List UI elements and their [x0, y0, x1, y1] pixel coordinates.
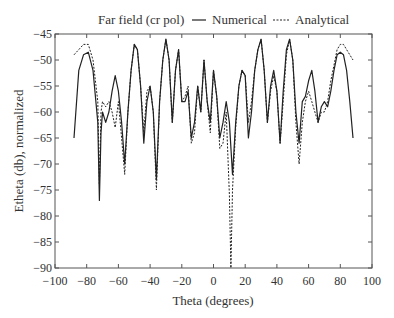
x-tick-label: 60 — [303, 274, 315, 288]
x-tick-label: 80 — [334, 274, 346, 288]
x-tick-label: 0 — [211, 274, 217, 288]
legend-analytical: Analytical — [295, 12, 350, 27]
y-tick-label: −55 — [33, 79, 52, 93]
x-tick-label: −60 — [109, 274, 128, 288]
y-axis: −45−50−55−60−65−70−75−80−85−90 — [33, 27, 372, 275]
y-tick-label: −50 — [33, 53, 52, 67]
x-tick-label: −40 — [141, 274, 160, 288]
x-tick-label: 100 — [363, 274, 381, 288]
x-tick-label: −20 — [172, 274, 191, 288]
far-field-chart: Far field (cr pol) Numerical Analytical … — [0, 0, 394, 318]
legend-numerical: Numerical — [212, 12, 267, 27]
y-axis-label: Etheta (db), normalized — [11, 89, 26, 213]
x-tick-label: 20 — [239, 274, 251, 288]
chart-title: Far field (cr pol) — [98, 12, 184, 27]
x-tick-label: −100 — [43, 274, 68, 288]
series-lines — [74, 39, 353, 268]
y-tick-label: −75 — [33, 183, 52, 197]
x-tick-label: 40 — [271, 274, 283, 288]
y-tick-label: −65 — [33, 131, 52, 145]
y-tick-label: −80 — [33, 209, 52, 223]
series-numerical — [74, 39, 353, 200]
x-tick-label: −80 — [77, 274, 96, 288]
y-tick-label: −85 — [33, 235, 52, 249]
y-tick-label: −45 — [33, 27, 52, 41]
y-tick-label: −60 — [33, 105, 52, 119]
y-tick-label: −90 — [33, 261, 52, 275]
y-tick-label: −70 — [33, 157, 52, 171]
x-axis-label: Theta (degrees) — [172, 293, 253, 308]
plot-area — [55, 34, 372, 268]
